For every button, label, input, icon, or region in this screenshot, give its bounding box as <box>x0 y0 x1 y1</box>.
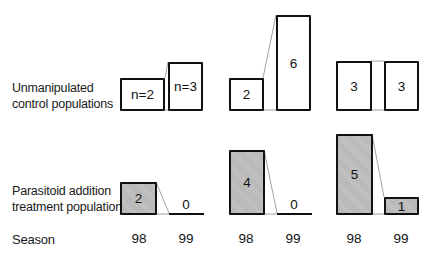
treatment-row-label-line2: treatment populations <box>12 199 128 215</box>
treatment-zero-label-g1-99: 0 <box>169 197 203 212</box>
control-box-g3-98: 3 <box>336 61 372 111</box>
control-box-g3-99: 3 <box>384 61 419 111</box>
treatment-box-g2-98: 4 <box>229 150 265 215</box>
treatment-row-label-line1: Parasitoid addition <box>12 183 128 199</box>
treatment-row-label: Parasitoid addition treatment population… <box>12 183 128 215</box>
treatment-zero-label-g2-99: 0 <box>277 197 311 212</box>
control-row-label: Unmanipulated control populations <box>12 80 113 112</box>
season-row-label: Season <box>12 232 55 248</box>
treatment-box-g3-98: 5 <box>336 134 373 215</box>
season-label-g1-99: 99 <box>168 231 204 246</box>
control-box-g1-99: n=3 <box>168 62 203 111</box>
season-label-g3-99: 99 <box>383 231 419 246</box>
control-box-g2-99: 6 <box>276 15 311 111</box>
connector-lines <box>0 0 426 254</box>
season-label-g2-98: 98 <box>228 231 264 246</box>
control-row-label-line1: Unmanipulated <box>12 80 113 96</box>
season-label-g2-99: 99 <box>275 231 311 246</box>
control-box-g2-98: 2 <box>229 78 264 111</box>
treatment-zero-line-g2-99 <box>277 213 312 215</box>
season-label-g3-98: 98 <box>336 231 372 246</box>
treatment-box-g1-98: 2 <box>120 182 157 215</box>
treatment-box-g3-99: 1 <box>384 197 419 215</box>
treatment-zero-line-g1-99 <box>169 213 204 215</box>
season-label-g1-98: 98 <box>121 231 157 246</box>
control-row-label-line2: control populations <box>12 96 113 112</box>
control-box-g1-98: n=2 <box>120 78 165 111</box>
